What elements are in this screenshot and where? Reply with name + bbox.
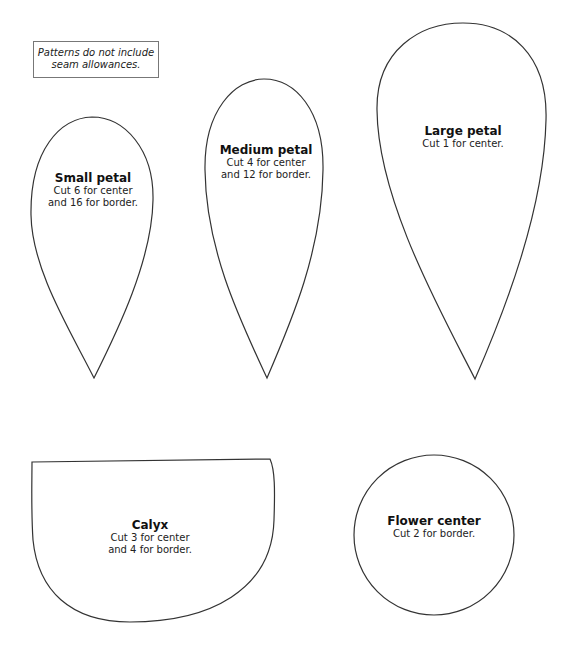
flower-center-line-1: Cut 2 for border. [374, 528, 494, 540]
calyx-line-2: and 4 for border. [90, 544, 210, 556]
medium-petal-line-2: and 12 for border. [210, 169, 322, 181]
flower-center-label: Flower center Cut 2 for border. [374, 514, 494, 540]
large-petal-outline [377, 23, 546, 379]
note-line-1: Patterns do not include [34, 47, 158, 59]
medium-petal-line-1: Cut 4 for center [210, 157, 322, 169]
medium-petal-title: Medium petal [210, 143, 322, 157]
calyx-line-1: Cut 3 for center [90, 532, 210, 544]
note-line-2: seam allowances. [34, 59, 158, 71]
flower-center-title: Flower center [374, 514, 494, 528]
seam-allowance-note: Patterns do not include seam allowances. [33, 41, 159, 78]
medium-petal-outline [205, 79, 323, 378]
small-petal-line-2: and 16 for border. [37, 197, 149, 209]
large-petal-label: Large petal Cut 1 for center. [403, 124, 523, 150]
small-petal-label: Small petal Cut 6 for center and 16 for … [37, 171, 149, 209]
large-petal-line-1: Cut 1 for center. [403, 138, 523, 150]
calyx-label: Calyx Cut 3 for center and 4 for border. [90, 518, 210, 556]
small-petal-title: Small petal [37, 171, 149, 185]
large-petal-title: Large petal [403, 124, 523, 138]
medium-petal-label: Medium petal Cut 4 for center and 12 for… [210, 143, 322, 181]
small-petal-line-1: Cut 6 for center [37, 185, 149, 197]
calyx-title: Calyx [90, 518, 210, 532]
pattern-shapes [0, 0, 565, 664]
small-petal-outline [31, 117, 153, 378]
